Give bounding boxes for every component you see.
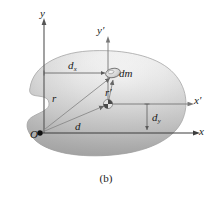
- dx-label: dx: [68, 60, 77, 72]
- x-axis-label: x: [199, 126, 204, 137]
- dx-label-base: d: [68, 59, 74, 71]
- d-vector-label: d: [75, 121, 81, 132]
- y-prime-axis-label: y′: [97, 25, 104, 36]
- dy-label: dy: [152, 112, 161, 124]
- r-vector-label: r: [52, 93, 56, 104]
- y-prime-axis-arrow: [106, 36, 110, 43]
- figure-container: y y′ x′ x O dx dy d r r′ dm (b): [0, 0, 212, 198]
- origin-point: [37, 130, 42, 135]
- rigid-body-diagram: [0, 0, 212, 198]
- y-axis-label: y: [40, 8, 45, 19]
- center-of-mass-marker: [103, 99, 112, 108]
- y-axis-arrow: [42, 18, 47, 25]
- dy-label-subscript: y: [158, 117, 161, 124]
- dm-label: dm: [119, 68, 132, 79]
- figure-caption: (b): [0, 172, 212, 184]
- r-prime-vector-label: r′: [105, 87, 112, 98]
- x-prime-axis-label: x′: [194, 95, 201, 106]
- dy-label-base: d: [152, 111, 158, 123]
- dx-label-subscript: x: [74, 65, 77, 72]
- origin-label: O: [30, 129, 38, 140]
